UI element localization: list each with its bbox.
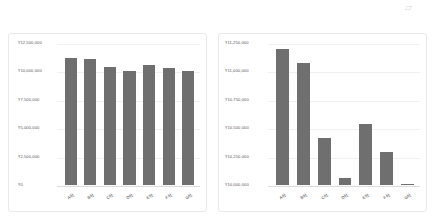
y-axis-tick-label: ¥10,500,000 — [225, 125, 249, 130]
plot-area-left: ¥0¥2,500,000¥5,000,000¥7,500,000¥10,000,… — [9, 34, 206, 211]
bar — [163, 68, 175, 185]
y-axis-tick-label: ¥10,250,000 — [225, 154, 249, 159]
bar — [359, 124, 372, 185]
y-axis-tick-label: ¥11,250,000 — [225, 40, 249, 45]
y-axis-tick-label: ¥7,500,000 — [18, 97, 40, 102]
bar-slot: D社 — [335, 43, 356, 185]
bar-slot: C社 — [314, 43, 335, 185]
plot-area-right: ¥10,000,000¥10,250,000¥10,500,000¥10,750… — [219, 34, 426, 211]
bar — [104, 67, 116, 185]
y-axis-tick-label: ¥2,500,000 — [18, 154, 40, 159]
bar — [143, 65, 155, 185]
bar — [297, 63, 310, 185]
y-axis-tick-label: ¥10,000,000 — [18, 68, 42, 73]
bar-slot: A社 — [61, 43, 81, 185]
bar-slot: G社 — [397, 43, 418, 185]
bar-slot: A社 — [272, 43, 293, 185]
bar-slot: G社 — [178, 43, 198, 185]
y-axis-tick-label: ¥11,000,000 — [225, 68, 249, 73]
bar-series-left: A社B社C社D社E社F社G社 — [61, 43, 198, 185]
bar-slot: C社 — [100, 43, 120, 185]
bar — [339, 178, 352, 185]
y-axis-tick-label: ¥0 — [18, 182, 23, 187]
y-axis-tick-label: ¥5,000,000 — [18, 125, 40, 130]
charts-row: ¥0¥2,500,000¥5,000,000¥7,500,000¥10,000,… — [0, 0, 435, 221]
bar-slot: B社 — [81, 43, 101, 185]
bar-slot: E社 — [139, 43, 159, 185]
bar-slot: F社 — [376, 43, 397, 185]
bar-slot: B社 — [293, 43, 314, 185]
bar — [123, 71, 135, 185]
x-axis-baseline-right — [268, 186, 420, 187]
chart-panel-right: ¥10,000,000¥10,250,000¥10,500,000¥10,750… — [218, 33, 427, 212]
chart-panel-left: ¥0¥2,500,000¥5,000,000¥7,500,000¥10,000,… — [8, 33, 207, 212]
bar-slot: E社 — [355, 43, 376, 185]
bar — [182, 71, 194, 185]
bar-slot: F社 — [159, 43, 179, 185]
bar-series-right: A社B社C社D社E社F社G社 — [272, 43, 418, 185]
bar — [401, 184, 414, 185]
bar — [380, 152, 393, 185]
bar — [318, 138, 331, 185]
bar — [276, 49, 289, 185]
bar — [65, 58, 77, 185]
y-axis-tick-label: ¥12,500,000 — [18, 40, 42, 45]
bar-slot: D社 — [120, 43, 140, 185]
y-axis-tick-label: ¥10,000,000 — [225, 182, 249, 187]
x-axis-baseline-left — [57, 186, 200, 187]
bar — [84, 59, 96, 185]
y-axis-tick-label: ¥10,750,000 — [225, 97, 249, 102]
